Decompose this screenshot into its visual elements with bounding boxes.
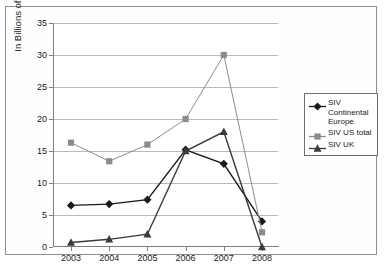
data-point-marker (221, 52, 227, 58)
data-point-marker (259, 229, 265, 235)
y-axis-tick-label: 10 (23, 179, 47, 188)
data-point-marker (67, 201, 75, 209)
y-axis-tick-label: 5 (23, 211, 47, 220)
y-axis-tick-label: 30 (23, 51, 47, 60)
data-point-marker (68, 140, 74, 146)
data-point-marker (143, 230, 151, 237)
data-point-marker (105, 200, 113, 208)
data-point-marker (258, 243, 266, 250)
x-axis-tick (224, 247, 225, 251)
series-line (71, 55, 262, 232)
legend-entry: SIV UK (308, 140, 374, 151)
y-axis-tick-label: 25 (23, 83, 47, 92)
x-axis-tick (71, 247, 72, 251)
legend-marker-square-icon (308, 128, 327, 139)
data-point-marker (220, 160, 228, 168)
y-axis-title: In Billions of Dollars (12, 0, 23, 65)
legend-label: SIVContinentalEurope (327, 98, 368, 127)
data-point-marker (313, 102, 321, 110)
legend-entry: SIVContinentalEurope (308, 98, 374, 127)
series-siv-continental-europe (67, 146, 266, 226)
data-point-marker (183, 116, 189, 122)
series-line (71, 132, 262, 247)
series-siv-uk (67, 128, 266, 251)
plot-area (53, 23, 278, 247)
x-axis-tick (186, 247, 187, 251)
y-axis-tick-label: 15 (23, 147, 47, 156)
data-point-marker (106, 158, 112, 164)
y-axis-tick-label: 0 (23, 243, 47, 252)
legend-label: SIV UK (327, 140, 354, 150)
legend-marker-diamond-icon (308, 98, 327, 109)
y-axis-tick-label: 35 (23, 19, 47, 28)
x-axis-tick-label: 2008 (239, 254, 285, 263)
legend-entry: SIV US total (308, 128, 374, 139)
data-point-marker (314, 133, 320, 139)
x-axis-tick (109, 247, 110, 251)
chart-frame: In Billions of Dollars 05101520253035 20… (5, 6, 377, 255)
x-axis-tick (147, 247, 148, 251)
y-axis-tick-label: 20 (23, 115, 47, 124)
legend-marker-triangle-icon (308, 140, 327, 151)
legend-label: SIV US total (327, 128, 372, 138)
data-series-layer (53, 23, 278, 247)
data-point-marker (220, 128, 228, 135)
data-point-marker (144, 142, 150, 148)
chart-legend: SIVContinentalEuropeSIV US totalSIV UK (304, 93, 378, 156)
y-axis-tick (49, 247, 53, 248)
series-siv-us-total (68, 52, 265, 235)
